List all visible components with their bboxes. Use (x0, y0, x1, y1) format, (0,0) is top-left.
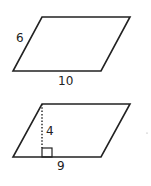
parallelogram-1: 6 10 (13, 17, 130, 88)
parallelogram-1-shape (13, 17, 130, 71)
diagram-canvas: 6 10 4 9 (0, 0, 151, 186)
stray-dot (146, 132, 147, 133)
side-label: 6 (16, 31, 24, 45)
base-label: 9 (57, 159, 65, 173)
height-label: 4 (46, 124, 54, 138)
parallelogram-2-shape (13, 104, 130, 157)
parallelogram-2: 4 9 (13, 104, 130, 173)
base-label: 10 (58, 74, 73, 88)
right-angle-marker (42, 148, 52, 157)
